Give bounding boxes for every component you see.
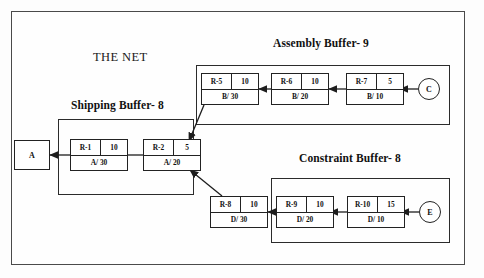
node-r5-route: B/ 30 (202, 90, 258, 104)
node-r8[interactable]: R-8 10 D/ 30 (210, 196, 268, 228)
node-r1-qty: 10 (101, 140, 127, 155)
node-r1[interactable]: R-1 10 A/ 30 (70, 139, 128, 171)
node-r5-id: R-5 (202, 74, 232, 89)
terminal-node-a[interactable]: A (14, 140, 50, 170)
node-r5[interactable]: R-5 10 B/ 30 (201, 73, 259, 105)
node-r2-id: R-2 (144, 140, 174, 155)
net-label: THE NET (93, 50, 148, 65)
node-r9-route: D/ 20 (277, 213, 333, 227)
node-r6[interactable]: R-6 10 B/ 20 (271, 73, 329, 105)
constraint-buffer-title: Constraint Buffer- 8 (299, 152, 401, 164)
node-r1-route: A/ 30 (71, 156, 127, 170)
node-r8-qty: 10 (241, 197, 267, 212)
node-r10[interactable]: R-10 15 D/ 10 (347, 196, 405, 228)
node-r7-qty: 5 (377, 74, 403, 89)
node-r6-qty: 10 (302, 74, 328, 89)
node-r6-header: R-6 10 (272, 74, 328, 90)
node-r2-route: A/ 20 (144, 156, 200, 170)
node-r7-route: B/ 10 (347, 90, 403, 104)
node-r5-header: R-5 10 (202, 74, 258, 90)
node-r1-id: R-1 (71, 140, 101, 155)
terminal-node-c[interactable]: C (418, 78, 440, 100)
node-r9[interactable]: R-9 10 D/ 20 (276, 196, 334, 228)
node-r10-header: R-10 15 (348, 197, 404, 213)
node-r9-header: R-9 10 (277, 197, 333, 213)
node-r7[interactable]: R-7 5 B/ 10 (346, 73, 404, 105)
node-r1-header: R-1 10 (71, 140, 127, 156)
node-r7-header: R-7 5 (347, 74, 403, 90)
node-r8-route: D/ 30 (211, 213, 267, 227)
diagram-canvas: Assembly Buffer- 9 Shipping Buffer- 8 Co… (0, 0, 484, 278)
node-r9-id: R-9 (277, 197, 307, 212)
node-r10-qty: 15 (378, 197, 404, 212)
node-r5-qty: 10 (232, 74, 258, 89)
node-r2-qty: 5 (174, 140, 200, 155)
node-r6-id: R-6 (272, 74, 302, 89)
node-r8-id: R-8 (211, 197, 241, 212)
node-r6-route: B/ 20 (272, 90, 328, 104)
node-r7-id: R-7 (347, 74, 377, 89)
node-r2[interactable]: R-2 5 A/ 20 (143, 139, 201, 171)
node-r10-route: D/ 10 (348, 213, 404, 227)
node-r8-header: R-8 10 (211, 197, 267, 213)
node-r10-id: R-10 (348, 197, 378, 212)
node-r9-qty: 10 (307, 197, 333, 212)
assembly-buffer-title: Assembly Buffer- 9 (273, 37, 369, 49)
node-r2-header: R-2 5 (144, 140, 200, 156)
shipping-buffer-title: Shipping Buffer- 8 (71, 99, 164, 111)
terminal-node-e[interactable]: E (419, 201, 441, 223)
